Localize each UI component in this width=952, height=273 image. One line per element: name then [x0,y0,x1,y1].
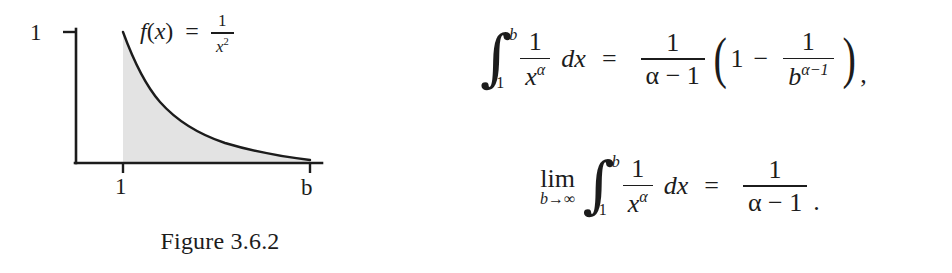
figure-panel: 1 1 b f(x) = 1 x2 Figure 3.6.2 [0,0,400,273]
rhs-fraction-denominator-2: α − 1 [743,189,807,217]
paren-open-1: ( [713,41,726,76]
rhs-fraction-denominator-exponent-1: α−1 [801,61,828,78]
rhs-prefactor-fraction-1: 1 α − 1 [641,29,705,90]
integrand-fraction-bar-1 [520,58,550,60]
function-label-denominator: x2 [211,36,234,56]
equation-integral-definite: ∫ b 1 1 xα dx = 1 α − 1 ( 1 − 1 bα−1 ) , [480,28,867,90]
equals-sign-2: = [704,171,719,201]
equation-terminator-1: , [860,60,867,90]
rhs-fraction-denominator-base-1: b [788,62,801,91]
function-label-arg: x [155,18,166,44]
integrand-numerator-2: 1 [626,155,649,183]
integral-upper-limit: b [612,153,620,171]
differential-dx-1: dx [561,44,586,74]
integrand-denominator-base-2: x [628,189,640,218]
integral-lower-limit: 1 [496,74,504,92]
rhs-fraction-1: 1 bα−1 [783,28,833,90]
rhs-fraction-bar-1 [783,58,833,60]
rhs-minus-1: − [754,44,769,74]
integrand-denominator-2: xα [623,188,653,217]
equation-terminator-2: . [813,187,820,217]
integrand-denominator-base-1: x [525,62,537,91]
integrand-fraction-1: 1 xα [520,28,550,90]
integral-sign-group-1: ∫ b 1 [480,30,511,88]
rhs-fraction-2: 1 α − 1 [743,156,807,217]
function-label-numerator: 1 [213,12,232,30]
integrand-fraction-2: 1 xα [623,155,653,217]
integrand-numerator-1: 1 [524,28,547,56]
integral-upper-limit: b [509,26,517,44]
integral-limits-2: b 1 [606,157,614,215]
rhs-fraction-numerator-2: 1 [764,156,787,184]
integral-sign-group-2: ∫ b 1 [582,157,613,215]
function-label-equals: = [185,18,199,44]
rhs-prefactor-denominator-1: α − 1 [641,62,705,90]
limit-operator-main: lim [540,165,575,192]
limit-subscript-variable: b [540,190,548,207]
limit-operator-subscript: b→∞ [540,191,575,208]
y-axis-tick-label-1: 1 [30,21,42,44]
figure-caption: Figure 3.6.2 [0,228,440,255]
function-label-paren-open: ( [147,18,155,44]
integrand-fraction-bar-2 [623,185,653,187]
rhs-prefactor-fraction-bar-1 [641,58,705,60]
integrand-denominator-exponent-1: α [537,61,545,78]
x-axis-tick-label-1: 1 [115,175,127,198]
integral-limits-1: b 1 [503,30,511,88]
integrand-denominator-1: xα [520,61,550,90]
rhs-fraction-denominator-1: bα−1 [783,61,833,90]
limit-operator: lim b→∞ [540,165,575,208]
rhs-one-1: 1 [731,44,744,74]
equations-panel: ∫ b 1 1 xα dx = 1 α − 1 ( 1 − 1 bα−1 ) , [440,0,952,273]
rhs-fraction-numerator-1: 1 [797,28,820,56]
equation-integral-limit: lim b→∞ ∫ b 1 1 xα dx = 1 α − 1 . [540,155,820,217]
function-label-fraction-bar [211,32,234,34]
rhs-fraction-bar-2 [743,185,807,187]
function-label-paren-close: ) [165,18,173,44]
function-label-denominator-exponent: 2 [223,36,228,47]
equals-sign-1: = [602,44,617,74]
x-axis-tick-label-b: b [301,176,313,199]
rhs-prefactor-numerator-1: 1 [661,29,684,57]
paren-close-1: ) [842,41,855,76]
integral-lower-limit: 1 [599,201,607,219]
function-label: f(x) = 1 x2 [140,12,239,55]
function-label-fraction: 1 x2 [211,12,234,55]
limit-subscript-arrow-icon: → [548,190,564,207]
differential-dx-2: dx [664,171,689,201]
integrand-denominator-exponent-2: α [639,188,647,205]
limit-subscript-target: ∞ [564,190,575,207]
function-label-f: f [140,18,147,44]
